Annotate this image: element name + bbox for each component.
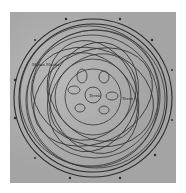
- orbit-diagram: Motus Martis Terra Terra: [0, 0, 186, 193]
- right-label: Terra: [122, 96, 134, 101]
- center-label: Terra: [89, 93, 101, 98]
- left-label: Motus Martis: [32, 62, 59, 67]
